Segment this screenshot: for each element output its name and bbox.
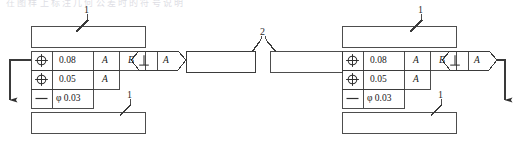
right-exit-leader xyxy=(497,60,505,100)
left-lower-box xyxy=(31,112,145,133)
left-perp-frame xyxy=(131,51,186,70)
right-perpendicularity-icon xyxy=(450,55,460,65)
left-perpendicularity-icon xyxy=(139,55,149,65)
center-leader-left xyxy=(252,41,260,52)
center-leader-right xyxy=(267,41,276,52)
left-position-icon-row2 xyxy=(35,73,48,86)
technical-drawing-svg xyxy=(0,0,515,144)
left-attached-box xyxy=(186,51,255,72)
right-position-icon-row2 xyxy=(346,73,359,86)
left-exit-leader xyxy=(10,60,31,100)
right-fcf-row1 xyxy=(342,51,456,70)
left-lower-leader xyxy=(120,105,131,115)
left-fcf-row1 xyxy=(31,51,145,70)
center-right-box xyxy=(270,51,342,72)
drawing-canvas: 在图样上标注几何公差时的符号说明 xyxy=(0,0,515,144)
symbol-layer xyxy=(35,54,460,98)
right-lower-box xyxy=(342,112,456,133)
left-upper-box xyxy=(31,26,145,47)
right-perp-frame xyxy=(442,51,497,70)
left-position-icon-row1 xyxy=(35,54,48,67)
center-left-box xyxy=(186,51,255,72)
right-upper-box xyxy=(342,26,456,47)
right-position-icon-row1 xyxy=(346,54,359,67)
right-lower-leader xyxy=(431,105,442,115)
